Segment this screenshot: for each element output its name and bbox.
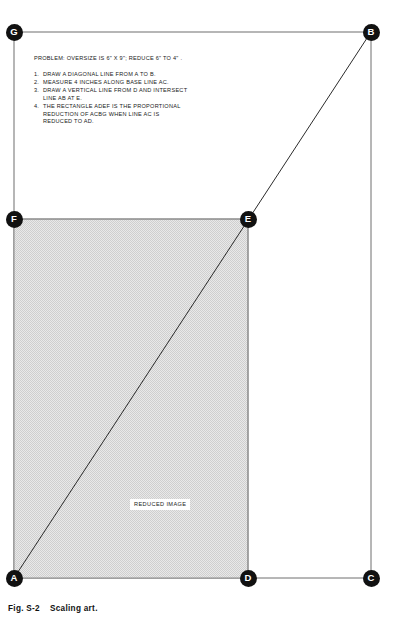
instruction-step: 3. DRAW A VERTICAL LINE FROM D AND INTER… bbox=[34, 87, 234, 102]
figure-caption: Fig. S-2Scaling art. bbox=[8, 604, 98, 613]
reduced-image-label: REDUCED IMAGE bbox=[130, 499, 190, 510]
instruction-text-block: PROBLEM: OVERSIZE IS 6" X 9"; REDUCE 6" … bbox=[34, 54, 234, 127]
scaling-art-figure: PROBLEM: OVERSIZE IS 6" X 9"; REDUCE 6" … bbox=[0, 0, 396, 624]
vertex-marker-c: C bbox=[363, 570, 380, 587]
step-line: THE RECTANGLE ADEF IS THE PROPORTIONAL bbox=[43, 103, 234, 111]
figure-number: Fig. S-2 bbox=[8, 604, 40, 613]
step-line: REDUCED TO AD. bbox=[43, 118, 234, 126]
step-number: 2. bbox=[34, 79, 43, 87]
figure-title: Scaling art. bbox=[50, 604, 98, 613]
vertex-marker-b: B bbox=[363, 24, 380, 41]
step-text: DRAW A VERTICAL LINE FROM D AND INTERSEC… bbox=[43, 87, 234, 102]
vertex-marker-e: E bbox=[240, 211, 257, 228]
step-text: THE RECTANGLE ADEF IS THE PROPORTIONAL R… bbox=[43, 103, 234, 126]
vertex-marker-a: A bbox=[6, 570, 23, 587]
step-line: REDUCTION OF ACBG WHEN LINE AC IS bbox=[43, 111, 234, 119]
step-line: DRAW A VERTICAL LINE FROM D AND INTERSEC… bbox=[43, 87, 234, 95]
step-number: 4. bbox=[34, 103, 43, 126]
vertex-marker-g: G bbox=[6, 24, 23, 41]
instruction-step: 4. THE RECTANGLE ADEF IS THE PROPORTIONA… bbox=[34, 103, 234, 126]
step-line: MEASURE 4 INCHES ALONG BASE LINE AC. bbox=[43, 79, 234, 87]
problem-statement: PROBLEM: OVERSIZE IS 6" X 9"; REDUCE 6" … bbox=[34, 54, 234, 63]
step-number: 1. bbox=[34, 71, 43, 79]
step-text: DRAW A DIAGONAL LINE FROM A TO B. bbox=[43, 71, 234, 79]
vertex-marker-f: F bbox=[6, 211, 23, 228]
step-text: MEASURE 4 INCHES ALONG BASE LINE AC. bbox=[43, 79, 234, 87]
step-line: DRAW A DIAGONAL LINE FROM A TO B. bbox=[43, 71, 234, 79]
instruction-step: 1. DRAW A DIAGONAL LINE FROM A TO B. bbox=[34, 71, 234, 79]
step-number: 3. bbox=[34, 87, 43, 102]
instruction-step: 2. MEASURE 4 INCHES ALONG BASE LINE AC. bbox=[34, 79, 234, 87]
vertex-marker-d: D bbox=[240, 570, 257, 587]
instruction-steps-list: 1. DRAW A DIAGONAL LINE FROM A TO B. 2. … bbox=[34, 71, 234, 126]
step-line: LINE AB AT E. bbox=[43, 95, 234, 103]
